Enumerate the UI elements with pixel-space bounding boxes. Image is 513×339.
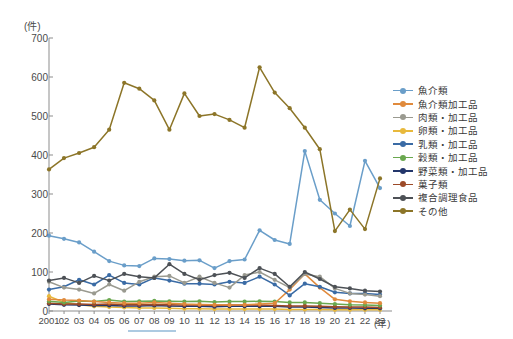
legend-swatch-icon [393,112,413,122]
legend-item[interactable]: 複合調理食品 [393,191,513,204]
y-axis-tick: 500 [14,111,48,122]
y-axis-tick: 100 [14,267,48,278]
legend-item[interactable]: 卵類・加工品 [393,124,513,137]
legend-item[interactable]: 野菜類・加工品 [393,164,513,177]
y-axis-tick: 700 [14,33,48,44]
legend-item-label: 野菜類・加工品 [418,166,488,177]
y-axis-tick: 300 [14,189,48,200]
y-axis-tick: 400 [14,150,48,161]
x-axis-tick: 13 [224,315,235,326]
x-axis-tick: 21 [345,315,356,326]
x-axis-tick: 22 [360,315,371,326]
chart-legend: 魚介類魚介類加工品肉類・加工品卵類・加工品乳類・加工品穀類・加工品野菜類・加工品… [393,84,513,218]
y-axis-tick-labels: 0100200300400500600700 [14,0,48,339]
legend-swatch-icon [393,99,413,109]
x-axis-tick: 05 [104,315,115,326]
y-axis-tick: 200 [14,228,48,239]
x-axis-tick: 06 [119,315,130,326]
legend-item-label: 穀類・加工品 [418,152,478,163]
x-axis-tick: 03 [74,315,85,326]
legend-item[interactable]: その他 [393,205,513,218]
legend-item-label: 菓子類 [418,179,448,190]
legend-item[interactable]: 穀類・加工品 [393,151,513,164]
legend-swatch-icon [393,206,413,216]
x-axis-tick: 20 [330,315,341,326]
legend-item-label: 魚介類加工品 [418,99,478,110]
legend-item[interactable]: 魚介類加工品 [393,97,513,110]
y-axis-tick: 600 [14,72,48,83]
legend-swatch-icon [393,193,413,203]
legend-item[interactable]: 菓子類 [393,178,513,191]
series-line [47,65,382,233]
legend-item-label: その他 [418,206,448,217]
scan-artifact-line [128,330,176,332]
x-axis-tick: 12 [209,315,220,326]
x-axis-tick: 23 [375,315,386,326]
x-axis-tick: 08 [149,315,160,326]
legend-item[interactable]: 魚介類 [393,84,513,97]
x-axis-tick: 15 [254,315,265,326]
x-axis-tick: 16 [269,315,280,326]
legend-swatch-icon [393,86,413,96]
x-axis-tick: 07 [134,315,145,326]
x-axis-tick: 09 [164,315,175,326]
legend-item-label: 魚介類 [418,85,448,96]
x-axis-tick: 10 [179,315,190,326]
legend-swatch-icon [393,139,413,149]
x-axis-tick: 17 [284,315,295,326]
legend-swatch-icon [393,126,413,136]
series-line [47,149,382,270]
x-axis-tick: 11 [195,315,205,326]
x-axis-tick: 2001 [38,315,59,326]
x-axis-tick: 18 [299,315,310,326]
legend-item-label: 乳類・加工品 [418,139,478,150]
x-axis-tick: 14 [239,315,250,326]
line-chart: (件) (年) 0100200300400500600700 200102030… [0,0,513,339]
legend-item[interactable]: 乳類・加工品 [393,138,513,151]
legend-item-label: 肉類・加工品 [418,112,478,123]
x-axis-tick: 19 [315,315,326,326]
legend-swatch-icon [393,153,413,163]
x-axis-tick: 02 [59,315,70,326]
legend-item-label: 複合調理食品 [418,192,478,203]
legend-swatch-icon [393,166,413,176]
x-axis-tick: 04 [89,315,100,326]
legend-item-label: 卵類・加工品 [418,125,478,136]
legend-swatch-icon [393,179,413,189]
legend-item[interactable]: 肉類・加工品 [393,111,513,124]
